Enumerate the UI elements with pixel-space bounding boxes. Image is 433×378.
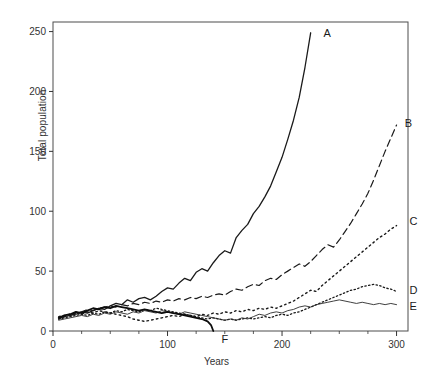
x-tick-label: 100 <box>159 339 176 350</box>
series-line-e <box>59 300 397 320</box>
y-tick-label: 150 <box>29 146 46 157</box>
series-line-b <box>59 125 397 319</box>
y-tick-label: 100 <box>29 206 46 217</box>
series-label-c: C <box>409 215 417 227</box>
x-tick-label: 0 <box>50 339 56 350</box>
y-tick-label: 50 <box>35 266 47 277</box>
series-label-d: D <box>409 284 417 296</box>
line-chart: 0501001502002500100200300 ABCDEF <box>0 0 433 378</box>
figure-container: Total population Years 05010015020025001… <box>0 0 433 378</box>
x-tick-label: 300 <box>388 339 405 350</box>
y-tick-label: 200 <box>29 86 46 97</box>
series-label-e: E <box>409 300 416 312</box>
figure-caption-fragment <box>8 370 428 378</box>
series-label-a: A <box>324 27 332 39</box>
series-labels-layer: ABCDEF <box>222 27 418 346</box>
series-line-a <box>59 33 311 318</box>
series-label-f: F <box>222 333 229 345</box>
x-tick-label: 200 <box>274 339 291 350</box>
y-tick-label: 0 <box>40 326 46 337</box>
series-layer <box>59 33 397 331</box>
axes-layer: 0501001502002500100200300 <box>29 22 408 350</box>
series-label-b: B <box>405 117 412 129</box>
y-tick-label: 250 <box>29 26 46 37</box>
series-line-d <box>59 284 397 320</box>
series-line-f <box>59 306 214 331</box>
plot-frame <box>53 22 408 331</box>
